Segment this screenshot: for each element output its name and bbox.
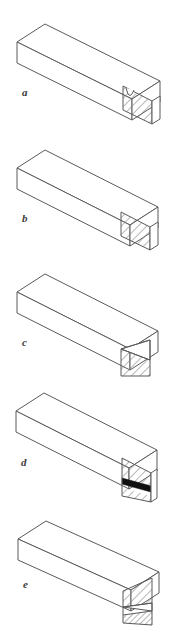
panel-label-a: a <box>22 86 28 98</box>
panel-label-b: b <box>22 212 28 224</box>
end-section-hatch-lower <box>118 609 160 629</box>
end-cap-strip <box>151 469 157 502</box>
panel-label-c: c <box>22 336 27 348</box>
figure-panel-a: a <box>0 0 174 126</box>
end-cap-strip <box>152 96 160 124</box>
panel-label-d: d <box>21 456 27 468</box>
end-cap-strip <box>150 222 158 250</box>
figure-panel-e: e <box>0 503 174 629</box>
figure-panel-b: b <box>0 126 174 252</box>
figure-panel-d: d <box>0 378 174 504</box>
figure-sheet: a b <box>0 0 174 629</box>
figure-panel-c: c <box>0 252 174 378</box>
panel-label-e: e <box>23 578 28 590</box>
